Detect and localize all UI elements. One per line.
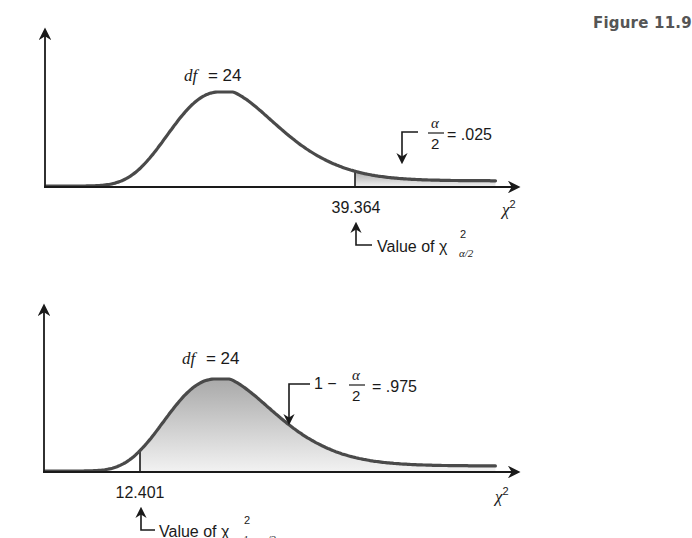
alpha-denominator: 2: [431, 135, 439, 152]
df-value: = 24: [208, 66, 242, 85]
chart-upper-tail: df = 24 α 2 = .025 39.364 χ2 Value of χ …: [44, 30, 518, 259]
x-axis-label: χ2: [493, 485, 509, 506]
density-curve: [46, 92, 496, 186]
critical-value-label: 12.401: [116, 484, 165, 501]
alpha-value: = .025: [447, 126, 492, 143]
alpha-numerator: α: [431, 115, 440, 131]
x-axis-label: χ2: [500, 198, 516, 219]
pointer-sub: 1 − α/2: [243, 533, 276, 538]
annotation-prefix: 1 −: [314, 375, 337, 392]
pointer-sub: α/2: [459, 247, 474, 259]
df-var: df: [184, 66, 200, 85]
df-label: df = 24: [182, 349, 240, 368]
alpha-denominator: 2: [352, 387, 360, 404]
pointer-arrow: [356, 224, 372, 245]
pointer-label: Value of χ: [159, 523, 230, 538]
df-value: = 24: [206, 349, 240, 368]
alpha-numerator: α: [352, 367, 361, 383]
complement-shaded-area: [140, 379, 495, 472]
df-label: df = 24: [184, 66, 242, 85]
critical-value-label: 39.364: [332, 199, 381, 216]
pointer-sup: 2: [460, 228, 466, 240]
pointer-sup: 2: [244, 514, 250, 526]
pointer-arrow: [141, 509, 155, 530]
annotation-arrow: [289, 384, 310, 423]
alpha-value: = .975: [372, 378, 417, 395]
annotation-arrow: [402, 132, 418, 162]
df-var: df: [182, 349, 198, 368]
pointer-label: Value of χ: [377, 238, 448, 255]
chart-lower-complement: df = 24 1 − α 2 = .975 12.401 χ2 Value o…: [43, 306, 518, 538]
